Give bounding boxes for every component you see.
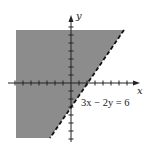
y-axis-arrow-icon (69, 15, 74, 22)
inequality-graph: y x 3x − 2y = 6 (0, 0, 160, 143)
y-axis-label: y (75, 10, 82, 21)
shaded-region (16, 30, 124, 138)
x-axis-label: x (137, 85, 143, 96)
equation-label: 3x − 2y = 6 (81, 97, 130, 108)
